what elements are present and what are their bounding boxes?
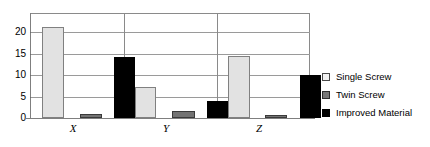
bars-layer bbox=[31, 13, 310, 118]
legend-item-twin-screw: Twin Screw bbox=[322, 86, 428, 104]
legend-label: Single Screw bbox=[336, 72, 391, 82]
bar-x-twin-screw bbox=[80, 114, 102, 118]
y-tick-label: 10 bbox=[4, 70, 26, 80]
y-tick-0: 0 bbox=[4, 113, 26, 123]
legend-swatch-icon bbox=[322, 91, 330, 99]
category-label-z: Z bbox=[249, 122, 269, 134]
y-tick-15: 15 bbox=[4, 49, 26, 59]
y-tick-label: 0 bbox=[4, 113, 26, 123]
bar-y-improved-material bbox=[207, 101, 228, 118]
y-tick-label: 15 bbox=[4, 49, 26, 59]
y-tick-5: 5 bbox=[4, 92, 26, 102]
y-tick-20: 20 bbox=[4, 27, 26, 37]
legend-swatch-icon bbox=[322, 109, 330, 117]
legend-label: Twin Screw bbox=[336, 90, 385, 100]
bar-z-twin-screw bbox=[265, 115, 287, 118]
legend-label: Improved Material bbox=[336, 108, 412, 118]
category-label-x: X bbox=[63, 122, 83, 134]
bar-x-improved-material bbox=[114, 57, 135, 118]
x-axis-baseline bbox=[26, 118, 315, 119]
grouped-bar-chart: 20 15 10 5 0 X Y Z bbox=[0, 0, 430, 147]
y-tick-label: 5 bbox=[4, 92, 26, 102]
legend-swatch-icon bbox=[322, 73, 330, 81]
bar-y-single-screw bbox=[135, 87, 156, 118]
chart-legend: Single Screw Twin Screw Improved Materia… bbox=[322, 68, 428, 122]
y-tick-label: 20 bbox=[4, 27, 26, 37]
y-tick-10: 10 bbox=[4, 70, 26, 80]
legend-item-single-screw: Single Screw bbox=[322, 68, 428, 86]
bar-z-single-screw bbox=[228, 56, 250, 118]
legend-item-improved-material: Improved Material bbox=[322, 104, 428, 122]
bar-z-improved-material bbox=[300, 75, 321, 118]
bar-y-twin-screw bbox=[172, 111, 195, 118]
category-label-y: Y bbox=[156, 122, 176, 134]
bar-x-single-screw bbox=[42, 27, 64, 118]
